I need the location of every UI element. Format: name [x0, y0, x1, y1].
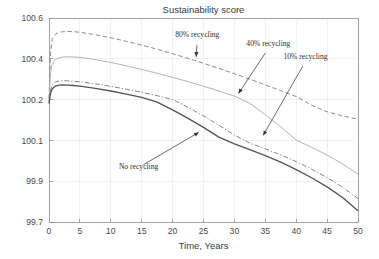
gridlines-layer: [49, 18, 358, 222]
y-axis-ticks: 100.6100.4100.2100.199.999.7: [21, 13, 52, 227]
annotation-arrowhead: [194, 52, 198, 57]
x-tick-label: 45: [322, 226, 332, 236]
chart-title: Sustainability score: [163, 4, 245, 15]
x-axis-label: Time, Years: [179, 240, 229, 251]
x-tick-label: 0: [47, 226, 52, 236]
y-tick-label: 99.9: [26, 176, 43, 186]
annotation-leader-line: [143, 132, 198, 164]
x-tick-label: 5: [78, 226, 83, 236]
annotation-label: 40% recycling: [246, 39, 290, 48]
y-tick-label: 100.2: [21, 95, 43, 105]
x-tick-label: 25: [199, 226, 209, 236]
y-tick-label: 100.1: [21, 136, 43, 146]
x-tick-label: 30: [230, 226, 240, 236]
x-tick-label: 20: [168, 226, 178, 236]
sustainability-score-line-chart: 05101520253035404550 100.6100.4100.2100.…: [0, 0, 379, 259]
y-tick-label: 100.4: [21, 54, 43, 64]
x-tick-label: 50: [353, 226, 363, 236]
annotation-label: No recycling: [119, 162, 159, 171]
annotation-label: 10% recycling: [283, 52, 327, 61]
annotation-label: 80% recycling: [175, 30, 219, 39]
y-tick-label: 99.7: [26, 217, 43, 227]
annotation-leader-line: [263, 66, 303, 135]
chart-figure: 05101520253035404550 100.6100.4100.2100.…: [0, 0, 379, 259]
y-tick-label: 100.6: [21, 13, 43, 23]
x-tick-label: 15: [137, 226, 147, 236]
x-axis-ticks: 05101520253035404550: [47, 219, 363, 236]
x-tick-label: 35: [261, 226, 271, 236]
annotation-arrowhead: [239, 88, 243, 93]
x-tick-label: 10: [106, 226, 116, 236]
x-tick-label: 40: [291, 226, 301, 236]
annotation-arrowhead: [194, 132, 199, 136]
